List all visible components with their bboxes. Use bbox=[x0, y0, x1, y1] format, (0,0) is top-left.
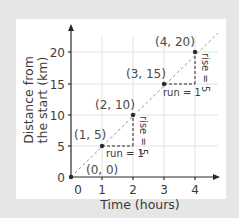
point-label: (2, 10) bbox=[95, 98, 135, 112]
point-label: (4, 20) bbox=[155, 35, 195, 49]
y-tick: 20 bbox=[50, 46, 65, 60]
point-label: (3, 15) bbox=[126, 67, 166, 81]
x-tick: 1 bbox=[98, 183, 106, 197]
y-axis-title-line1: Distance from bbox=[21, 56, 36, 144]
rise-label-group: rise = 5 bbox=[138, 116, 149, 155]
x-axis-title: Time (hours) bbox=[99, 197, 179, 212]
point-label: (1, 5) bbox=[74, 128, 106, 142]
rise-label: rise = 5 bbox=[200, 53, 211, 92]
distance-line bbox=[71, 33, 218, 177]
rise-label-group: rise = 5 bbox=[200, 53, 211, 92]
chart-svg: 0 5 10 15 20 0 1 2 3 4 Time (hours) Dist… bbox=[0, 0, 239, 218]
data-point bbox=[69, 175, 73, 179]
data-point bbox=[100, 144, 104, 148]
x-tick: 2 bbox=[129, 183, 137, 197]
data-point bbox=[193, 50, 197, 54]
y-tick-labels: 0 5 10 15 20 bbox=[50, 46, 65, 185]
data-point bbox=[162, 82, 166, 86]
y-tick: 0 bbox=[57, 171, 65, 185]
y-tick: 5 bbox=[57, 140, 65, 154]
y-tick: 15 bbox=[50, 78, 65, 92]
y-axis-title: Distance from the start (km) bbox=[21, 56, 50, 144]
y-tick: 10 bbox=[50, 109, 65, 123]
axes bbox=[68, 24, 220, 180]
x-tick: 0 bbox=[74, 183, 82, 197]
y-axis-title-line2: the start (km) bbox=[35, 57, 50, 144]
x-tick-labels: 0 1 2 3 4 bbox=[74, 183, 199, 197]
data-point bbox=[131, 113, 135, 117]
gridlines bbox=[71, 36, 218, 177]
run-label: run = 1 bbox=[163, 87, 201, 98]
point-label: (0, 0) bbox=[86, 163, 118, 177]
y-axis-arrow-icon bbox=[68, 24, 74, 31]
x-tick: 3 bbox=[160, 183, 168, 197]
rise-label: rise = 5 bbox=[138, 116, 149, 155]
x-axis-arrow-icon bbox=[213, 174, 220, 180]
x-tick: 4 bbox=[191, 183, 199, 197]
